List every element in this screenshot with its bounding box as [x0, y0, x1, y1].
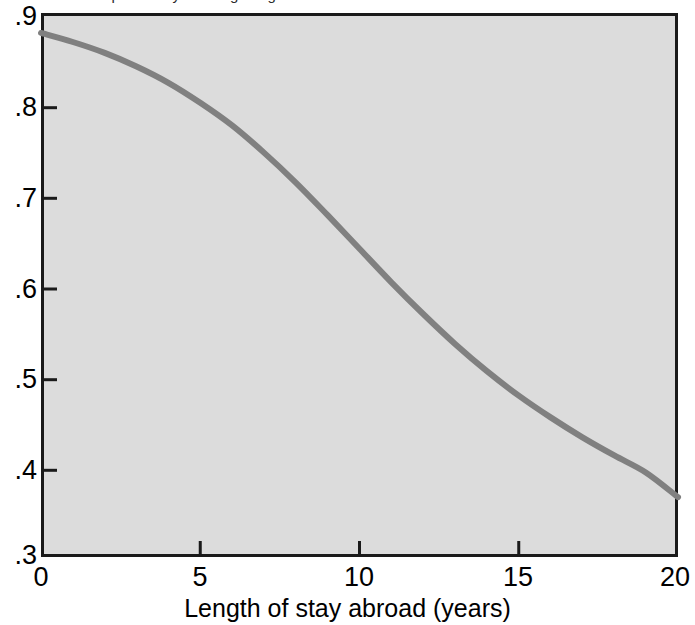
y-tick-label-04: .4 — [1, 457, 37, 484]
x-axis-title: Length of stay abroad (years) — [0, 594, 695, 622]
y-axis-tick-labels: .9 .8 .7 .6 .5 .4 .3 — [0, 0, 37, 625]
y-tick-label-06: .6 — [1, 276, 37, 303]
x-tick-label-0: 0 — [11, 562, 71, 592]
y-tick-marks — [41, 108, 57, 471]
y-tick-label-05: .5 — [1, 366, 37, 393]
y-tick-label-08: .8 — [1, 94, 37, 121]
clipped-caption-text: Predicted probability of remigrating — [44, 0, 564, 3]
x-tick-marks — [200, 541, 519, 557]
x-tick-label-10b: 10 — [329, 562, 389, 592]
y-tick-label-07: .7 — [1, 185, 37, 212]
chart-figure: Predicted probability of remigrating .9 … — [0, 0, 695, 625]
x-tick-label-20: 20 — [645, 562, 695, 592]
x-tick-label-5: 5 — [170, 562, 230, 592]
y-tick-label-09: .9 — [1, 3, 37, 30]
data-series-line — [41, 33, 678, 497]
x-tick-label-15: 15 — [488, 562, 548, 592]
plot-canvas — [41, 13, 678, 557]
